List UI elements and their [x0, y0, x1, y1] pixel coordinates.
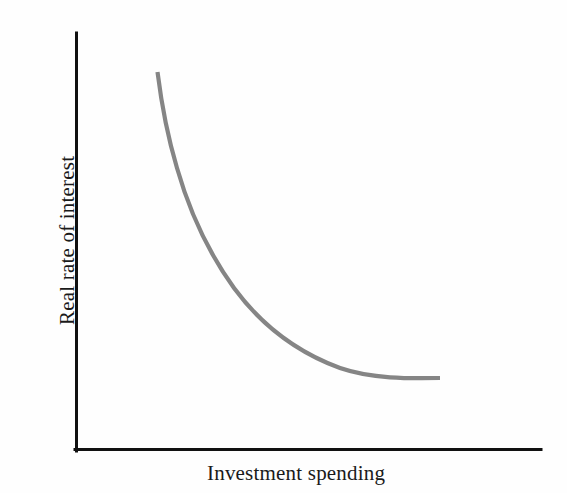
- chart-background: [0, 0, 567, 493]
- y-axis-label: Real rate of interest: [55, 75, 80, 325]
- chart-canvas: [0, 0, 567, 493]
- x-axis-label: Investment spending: [0, 461, 567, 486]
- chart-figure: Investment spending Real rate of interes…: [0, 0, 567, 493]
